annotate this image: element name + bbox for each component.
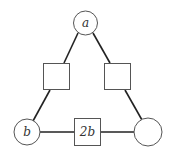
edge-left-bottom [33, 90, 50, 121]
node-right-square [105, 64, 131, 90]
node-label-2b: 2b [79, 125, 95, 139]
square-shape [105, 64, 131, 90]
square-shape [44, 64, 70, 90]
node-bottom-left-circle: b [14, 119, 40, 145]
node-label-b: b [23, 125, 31, 139]
edge-top-left [64, 33, 78, 63]
node-bottom-square: 2b [75, 119, 101, 146]
edge-top-right [93, 33, 110, 63]
edge-right-bottom [125, 90, 142, 120]
circle-shape [134, 118, 162, 146]
node-label-a: a [82, 16, 89, 30]
node-bottom-right-circle [134, 118, 162, 146]
node-left-square [44, 64, 70, 90]
node-top-circle: a [74, 11, 98, 35]
triangle-diagram: a b 2b [0, 0, 169, 158]
